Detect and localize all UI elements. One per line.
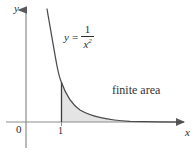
function-graph-figure: y x 0 1 finite area y = 1 x2 (0, 0, 196, 154)
equation-lhs: y (64, 31, 69, 43)
y-axis-label: y (14, 3, 19, 14)
plot-canvas (0, 0, 196, 154)
equation-equals-sign: = (72, 31, 78, 43)
x-tick-label-1: 1 (58, 126, 63, 136)
equation-denominator: x2 (81, 37, 93, 50)
origin-label: 0 (16, 124, 22, 135)
equation-numerator: 1 (83, 24, 93, 36)
denominator-exponent: 2 (88, 37, 92, 45)
equation-label: y = 1 x2 (64, 24, 94, 50)
equation-fraction: 1 x2 (81, 24, 94, 50)
x-axis-label: x (185, 127, 190, 138)
finite-area-label: finite area (112, 84, 160, 96)
